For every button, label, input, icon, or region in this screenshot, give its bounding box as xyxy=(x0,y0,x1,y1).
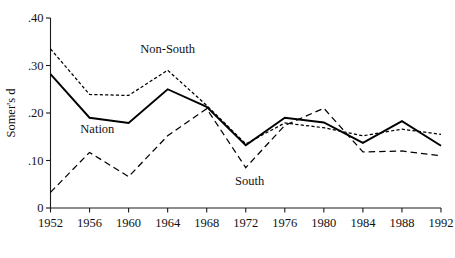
y-tick-label: .20 xyxy=(28,106,44,120)
somers-d-line-chart: 0.10.20.30.40195219561960196419681972197… xyxy=(0,0,455,258)
x-tick-label: 1968 xyxy=(194,216,219,230)
x-tick-label: 1988 xyxy=(389,216,414,230)
y-tick-label: .10 xyxy=(28,154,44,168)
y-tick-label: 0 xyxy=(37,201,43,215)
x-tick-label: 1992 xyxy=(429,216,454,230)
x-tick-label: 1984 xyxy=(350,216,376,230)
x-tick-label: 1976 xyxy=(272,216,297,230)
x-tick-label: 1956 xyxy=(77,216,102,230)
x-tick-label: 1960 xyxy=(116,216,141,230)
y-tick-label: .30 xyxy=(28,59,44,73)
series-annotation-south: South xyxy=(235,174,265,188)
x-tick-label: 1980 xyxy=(311,216,336,230)
chart-canvas: 0.10.20.30.40195219561960196419681972197… xyxy=(0,0,455,258)
y-tick-label: .40 xyxy=(28,11,44,25)
series-annotation-non-south: Non-South xyxy=(140,42,196,56)
x-tick-label: 1952 xyxy=(38,216,63,230)
x-tick-label: 1972 xyxy=(233,216,258,230)
x-tick-label: 1964 xyxy=(155,216,181,230)
series-annotation-nation: Nation xyxy=(80,122,115,136)
y-axis-title: Somer's d xyxy=(4,88,18,138)
